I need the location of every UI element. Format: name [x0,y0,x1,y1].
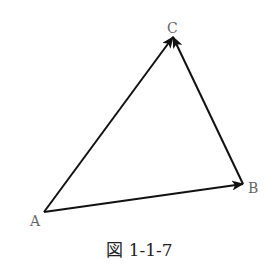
figure-caption: 図 1-1-7 [0,236,279,261]
point-label-a: A [29,213,41,229]
point-label-b: B [248,180,258,196]
vectors-group [44,37,243,212]
vector-arrow-bc [173,37,243,184]
vector-arrow-ac [44,37,173,212]
vector-triangle-diagram: A B C [0,0,279,270]
point-label-c: C [167,20,178,36]
vector-arrow-ab [44,184,243,212]
